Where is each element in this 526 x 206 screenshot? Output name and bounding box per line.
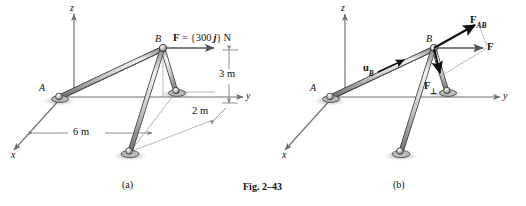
axis-x-line-b xyxy=(285,99,331,150)
support-right-joint-b xyxy=(440,87,457,96)
dimension-label-3m: 3 m xyxy=(219,69,235,80)
vector-label-f-base: F xyxy=(487,41,493,52)
axis-label-z-b: z xyxy=(341,3,345,13)
support-front-joint-a xyxy=(121,148,139,158)
force-label-f-applied: F = {300 j} N xyxy=(173,33,231,44)
joint-b-a xyxy=(159,44,166,51)
dimension-label-2m: 2 m xyxy=(192,106,208,117)
vector-label-ub-sub: B xyxy=(369,69,374,78)
panel-b-artwork xyxy=(285,14,500,161)
vector-label-fperp: F⊥ xyxy=(424,81,437,94)
point-label-b-panel-b: B xyxy=(426,34,432,44)
vector-label-fperp-sub: ⊥ xyxy=(430,87,437,96)
figure-container: z y x A B F = {300 j} N 3 m 2 m 6 m (a) … xyxy=(0,0,526,206)
axis-x-line xyxy=(14,99,60,150)
vector-label-ub: uB xyxy=(363,63,374,76)
vector-label-ub-base: u xyxy=(363,62,369,73)
figure-artwork xyxy=(0,0,526,206)
member-b-right-a xyxy=(163,49,176,92)
vector-label-fab: FAB xyxy=(470,15,486,28)
point-label-a-panel-a: A xyxy=(39,83,45,93)
member-b-front-b xyxy=(401,50,433,152)
dimension-2m xyxy=(214,108,226,120)
vector-label-fab-sub: AB xyxy=(476,21,486,30)
panel-caption-b: (b) xyxy=(393,180,405,190)
axis-label-x-b: x xyxy=(282,150,286,160)
point-label-a-panel-b: A xyxy=(310,83,316,93)
support-right-joint-a xyxy=(169,87,186,96)
vector-fab-arrow xyxy=(434,25,475,48)
axis-label-y-a: y xyxy=(246,91,250,101)
member-b-front-a xyxy=(130,50,162,152)
vector-label-f: F xyxy=(487,42,493,53)
parallelogram-line-2 xyxy=(441,48,487,76)
axis-label-y-b: y xyxy=(503,91,507,101)
figure-caption: Fig. 2–43 xyxy=(243,182,282,192)
support-front-joint-b xyxy=(392,148,410,158)
axis-label-z-a: z xyxy=(70,3,74,13)
point-label-b-panel-a: B xyxy=(155,34,161,44)
axis-label-x-a: x xyxy=(11,150,15,160)
dimension-label-6m: 6 m xyxy=(73,127,89,138)
panel-caption-a: (a) xyxy=(122,180,133,190)
